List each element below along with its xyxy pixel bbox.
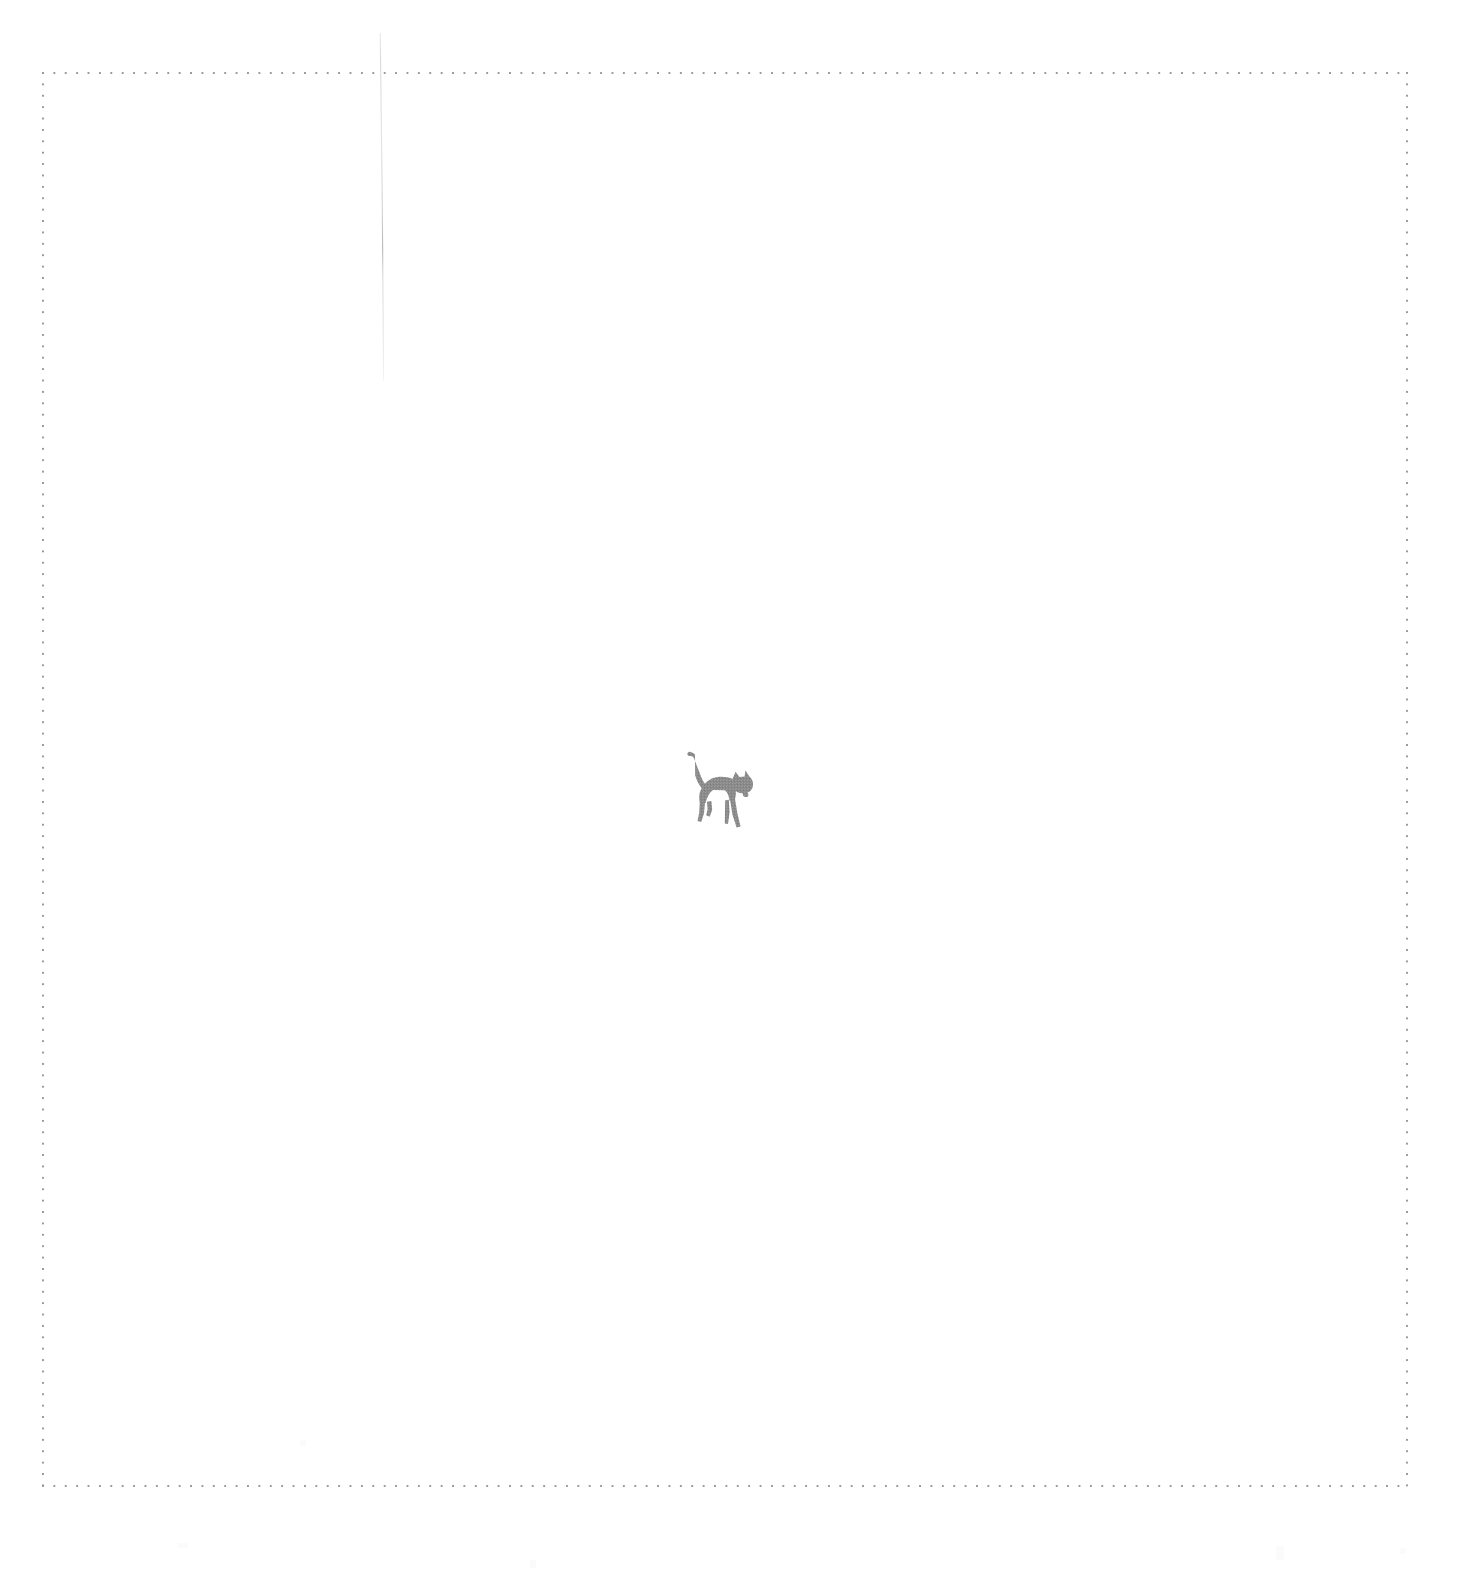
scan-line-artifact [376, 33, 388, 381]
cat-silhouette-icon [684, 744, 758, 836]
frame-edge-top [42, 72, 1408, 74]
speckle [178, 1543, 188, 1548]
scanned-page-canvas [0, 0, 1483, 1580]
speckle [530, 1560, 536, 1568]
dotted-border-frame [42, 72, 1408, 1487]
frame-edge-left [42, 72, 44, 1487]
frame-edge-right [1406, 72, 1408, 1487]
speckle [1400, 1548, 1406, 1554]
speckle [300, 1440, 306, 1446]
speckle [1276, 1546, 1284, 1560]
frame-edge-bottom [42, 1485, 1408, 1487]
